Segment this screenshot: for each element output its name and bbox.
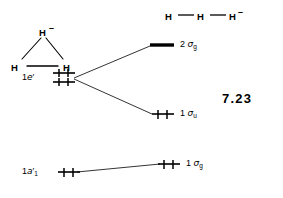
orbital-label-2sigma-g: 2 σg: [180, 39, 197, 50]
orbital-label-1sigma-u: 1 σu: [180, 108, 197, 119]
electrons-1e-prime: [59, 69, 68, 86]
level-1e-prime: [53, 69, 75, 86]
bond-top-left: [22, 38, 41, 59]
orbital-label-1a1-prime: 1a′1: [22, 166, 38, 177]
level-1a1-prime: [58, 168, 80, 177]
level-1sigma-g: [158, 160, 180, 169]
correlation-line-1e-to-2sigmag: [74, 46, 150, 78]
correlation-lines: [74, 46, 160, 172]
correlation-line-1e-to-1sigmau: [74, 79, 152, 114]
orbital-label-1e-prime: 1e′: [22, 72, 34, 82]
orbital-label-1sigma-g: 1 σg: [186, 158, 203, 169]
figure-number: 7.23: [222, 91, 252, 106]
bond-top-right: [46, 38, 63, 59]
triangular-bonds: [22, 38, 63, 66]
level-1sigma-u: [152, 110, 174, 119]
mo-correlation-diagram-figure: H – H H H H H –: [0, 0, 283, 198]
correlation-line-1a1-to-1sigmag: [77, 164, 160, 172]
